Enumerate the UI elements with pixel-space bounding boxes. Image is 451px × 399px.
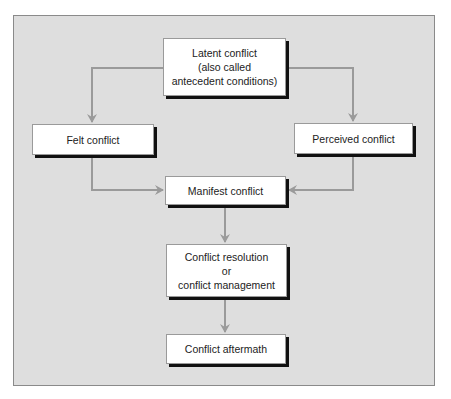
node-label-line: or (222, 264, 231, 278)
arrow-felt-to-manifest (92, 158, 163, 190)
arrow-latent-to-perceived (286, 68, 353, 121)
node-conflict-resolution: Conflict resolution or conflict manageme… (166, 244, 287, 297)
node-label-line: antecedent conditions) (172, 74, 278, 88)
node-felt-conflict: Felt conflict (32, 124, 154, 155)
node-label-line: Manifest conflict (188, 184, 263, 198)
node-manifest-conflict: Manifest conflict (165, 176, 286, 205)
node-label-line: Conflict aftermath (185, 342, 267, 356)
node-perceived-conflict: Perceived conflict (294, 123, 413, 154)
node-label-line: Conflict resolution (185, 250, 268, 264)
arrow-perceived-to-manifest (289, 156, 353, 190)
node-latent-conflict: Latent conflict (also called antecedent … (163, 38, 286, 96)
node-label-line: Felt conflict (66, 133, 119, 147)
node-label-line: Latent conflict (192, 46, 257, 60)
node-label-line: conflict management (178, 278, 275, 292)
node-label-line: Perceived conflict (312, 132, 394, 146)
node-label-line: (also called (198, 60, 251, 74)
arrow-latent-to-felt (92, 68, 163, 122)
node-conflict-aftermath: Conflict aftermath (166, 334, 286, 364)
